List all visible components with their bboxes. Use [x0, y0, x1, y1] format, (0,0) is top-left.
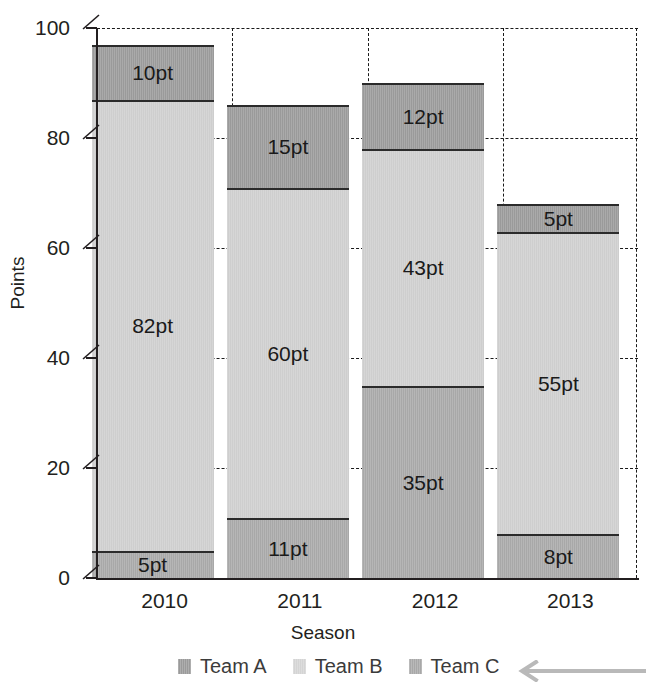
y-tick-label-0: 0	[14, 567, 70, 588]
legend-label: Team C	[431, 655, 500, 678]
y-tick-label-60: 60	[14, 237, 70, 258]
x-axis-line	[96, 578, 639, 580]
x-tick-label-2011: 2011	[232, 589, 367, 613]
y-tick-20	[86, 467, 97, 469]
bar-segment-2013-team-c[interactable]: 8pt	[497, 534, 619, 578]
arrow-left-icon	[506, 660, 646, 682]
x-axis-title: Season	[0, 622, 646, 644]
bar-segment-2013-team-a[interactable]: 5pt	[497, 204, 619, 232]
bar-value-label: 60pt	[267, 342, 308, 366]
bar-value-label: 55pt	[538, 372, 579, 396]
bar-group-2012[interactable]: 35pt43pt12pt	[362, 28, 484, 578]
bar-segment-2010-team-c[interactable]: 5pt	[92, 551, 214, 579]
y-tick-label-80: 80	[14, 127, 70, 148]
bar-segment-2011-team-b[interactable]: 60pt	[227, 188, 349, 518]
bar-segment-2012-team-b[interactable]: 43pt	[362, 149, 484, 386]
bar-group-2013[interactable]: 8pt55pt5pt	[497, 28, 619, 578]
bar-segment-2010-team-a[interactable]: 10pt	[92, 45, 214, 100]
y-tick-0	[86, 577, 97, 579]
bar-value-label: 5pt	[544, 207, 573, 231]
bar-group-2010[interactable]: 5pt82pt10pt	[92, 28, 214, 578]
bar-value-label: 10pt	[132, 61, 173, 85]
legend-item-team-b[interactable]: Team B	[293, 655, 383, 678]
legend-swatch-icon	[409, 659, 422, 674]
legend-label: Team A	[200, 655, 267, 678]
y-tick-60	[86, 247, 97, 249]
gridline-x-4	[636, 28, 637, 578]
y-tick-40	[86, 357, 97, 359]
bar-value-label: 15pt	[267, 135, 308, 159]
bar-value-label: 8pt	[544, 545, 573, 569]
legend-swatch-icon	[293, 659, 306, 674]
legend-swatch-icon	[178, 659, 191, 674]
bar-segment-2013-team-b[interactable]: 55pt	[497, 232, 619, 535]
x-tick-label-2012: 2012	[368, 589, 503, 613]
y-tick-100	[86, 27, 97, 29]
bar-value-label: 5pt	[138, 553, 167, 577]
bar-segment-2012-team-c[interactable]: 35pt	[362, 386, 484, 579]
x-tick-label-2013: 2013	[503, 589, 638, 613]
bar-group-2011[interactable]: 11pt60pt15pt	[227, 28, 349, 578]
bar-value-label: 12pt	[403, 105, 444, 129]
bar-segment-2012-team-a[interactable]: 12pt	[362, 83, 484, 149]
legend-label: Team B	[315, 655, 383, 678]
bar-value-label: 11pt	[268, 537, 307, 561]
bar-value-label: 35pt	[403, 471, 444, 495]
bar-value-label: 82pt	[132, 314, 173, 338]
plot-area: 5pt82pt10pt11pt60pt15pt35pt43pt12pt8pt55…	[97, 28, 638, 578]
chart-figure: 5pt82pt10pt11pt60pt15pt35pt43pt12pt8pt55…	[0, 0, 646, 688]
bar-segment-2011-team-a[interactable]: 15pt	[227, 105, 349, 188]
y-tick-label-40: 40	[14, 347, 70, 368]
bar-segment-2011-team-c[interactable]: 11pt	[227, 518, 349, 579]
x-tick-label-2010: 2010	[97, 589, 232, 613]
y-tick-80	[86, 137, 97, 139]
y-tick-label-100: 100	[14, 17, 70, 38]
y-axis-line	[96, 28, 98, 579]
legend-item-team-c[interactable]: Team C	[409, 655, 500, 678]
y-tick-label-20: 20	[14, 457, 70, 478]
y-axis-title: Points	[7, 257, 29, 310]
bar-segment-2010-team-b[interactable]: 82pt	[92, 100, 214, 551]
legend-item-team-a[interactable]: Team A	[178, 655, 267, 678]
bar-value-label: 43pt	[403, 256, 444, 280]
